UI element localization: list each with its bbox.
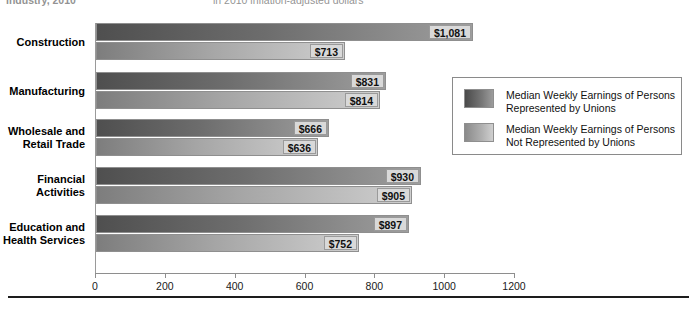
x-tick-label: 800 bbox=[366, 280, 384, 292]
x-tick bbox=[235, 273, 236, 278]
category-label: Wholesale and Retail Trade bbox=[8, 125, 85, 151]
bar-group: Construction$1,081$713 bbox=[0, 23, 697, 63]
x-tick bbox=[305, 273, 306, 278]
bar-value-label: $1,081 bbox=[429, 25, 471, 39]
legend-swatch-union bbox=[464, 89, 494, 108]
bar-nonunion: $752 bbox=[96, 234, 359, 252]
legend-label-union: Median Weekly Earnings of Persons Repres… bbox=[506, 89, 675, 115]
x-tick bbox=[374, 273, 375, 278]
bar-value-label: $897 bbox=[374, 217, 407, 231]
bar-value-label: $831 bbox=[351, 74, 384, 88]
bar-union: $1,081 bbox=[96, 23, 473, 41]
bar-value-label: $666 bbox=[294, 121, 327, 135]
bar-value-label: $752 bbox=[324, 236, 357, 250]
bar-union: $930 bbox=[96, 167, 421, 185]
category-label: Financial Activities bbox=[36, 173, 85, 199]
bar-union: $897 bbox=[96, 215, 409, 233]
legend-item-nonunion: Median Weekly Earnings of Persons Not Re… bbox=[464, 123, 675, 149]
legend-item-union: Median Weekly Earnings of Persons Repres… bbox=[464, 89, 675, 115]
chart-subtitle-right: in 2010 inflation-adjusted dollars bbox=[213, 0, 364, 6]
x-tick-label: 600 bbox=[296, 280, 314, 292]
x-tick bbox=[95, 273, 96, 278]
x-tick-label: 200 bbox=[156, 280, 174, 292]
legend-label-nonunion: Median Weekly Earnings of Persons Not Re… bbox=[506, 123, 675, 149]
bar-value-label: $713 bbox=[310, 44, 343, 58]
bar-union: $831 bbox=[96, 72, 386, 90]
chart-title-left: Industry, 2010 bbox=[6, 0, 76, 6]
bar-nonunion: $636 bbox=[96, 138, 318, 156]
bar-nonunion: $713 bbox=[96, 42, 345, 60]
x-tick-label: 1200 bbox=[502, 280, 525, 292]
bar-value-label: $905 bbox=[377, 188, 410, 202]
category-label: Education and Health Services bbox=[3, 221, 85, 247]
bar-value-label: $930 bbox=[386, 169, 419, 183]
bar-group: Financial Activities$930$905 bbox=[0, 167, 697, 207]
x-tick-label: 400 bbox=[226, 280, 244, 292]
x-tick-label: 1000 bbox=[432, 280, 455, 292]
bar-group: Education and Health Services$897$752 bbox=[0, 215, 697, 255]
bottom-divider bbox=[8, 296, 689, 298]
legend-swatch-nonunion bbox=[464, 123, 494, 142]
bar-union: $666 bbox=[96, 119, 329, 137]
x-tick bbox=[444, 273, 445, 278]
legend: Median Weekly Earnings of Persons Repres… bbox=[452, 77, 682, 155]
category-label: Manufacturing bbox=[9, 85, 85, 98]
x-tick bbox=[514, 273, 515, 278]
category-label: Construction bbox=[17, 36, 85, 49]
bar-chart: Industry, 2010 in 2010 inflation-adjuste… bbox=[0, 0, 697, 310]
bar-nonunion: $905 bbox=[96, 186, 412, 204]
bar-value-label: $814 bbox=[345, 93, 378, 107]
x-tick-label: 0 bbox=[92, 280, 98, 292]
x-tick bbox=[165, 273, 166, 278]
bar-nonunion: $814 bbox=[96, 91, 380, 109]
bar-value-label: $636 bbox=[283, 140, 316, 154]
